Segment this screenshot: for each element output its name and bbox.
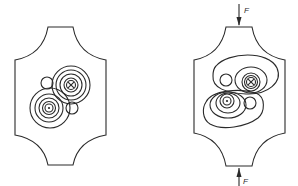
- right-small-hole-upper: [220, 74, 232, 86]
- diagram-canvas: F F: [0, 0, 298, 186]
- right-specimen: F F: [194, 4, 285, 186]
- left-crossed-conductor-field: [52, 66, 90, 104]
- bottom-force-label: F: [243, 177, 249, 186]
- right-upper-field: [213, 55, 278, 94]
- right-specimen-outline: [194, 27, 285, 166]
- left-dotted-conductor-field: [30, 88, 70, 128]
- top-force-arrow: F: [237, 4, 251, 26]
- left-specimen: [15, 27, 106, 165]
- bottom-force-arrow: F: [237, 168, 250, 186]
- left-small-hole-upper: [41, 77, 53, 89]
- top-force-label: F: [244, 6, 250, 15]
- right-lower-field: [203, 90, 263, 127]
